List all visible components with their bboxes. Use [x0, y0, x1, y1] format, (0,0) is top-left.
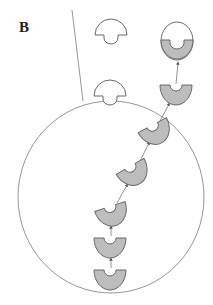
filled-receptor-oval	[161, 22, 193, 60]
panel-label: B	[19, 19, 29, 36]
ligand-unit-1	[160, 85, 192, 105]
ligand-unit-6	[94, 270, 126, 290]
diagram-canvas: B	[0, 0, 213, 305]
boundary-line	[72, 10, 83, 101]
diagram-svg	[0, 0, 213, 305]
ligand-unit-4	[95, 202, 132, 231]
empty-receptor-dome-free	[95, 19, 127, 44]
ligand-unit-5	[94, 238, 126, 258]
ligand-unit-3	[116, 158, 154, 191]
